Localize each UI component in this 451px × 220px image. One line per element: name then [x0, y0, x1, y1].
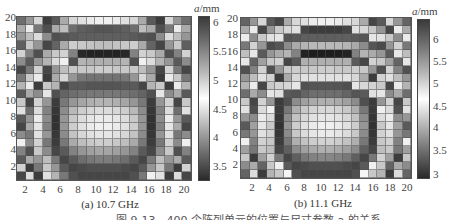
heatmap-cell: [182, 115, 191, 123]
heatmap-cell: [292, 50, 301, 58]
heatmap-cell: [174, 41, 183, 49]
heatmap-cell: [43, 147, 52, 155]
heatmap-cell: [258, 138, 267, 146]
heatmap-cell: [318, 26, 327, 34]
heatmap-cell: [87, 25, 96, 33]
y-tick: 20: [0, 12, 16, 23]
heatmap-cell: [258, 34, 267, 42]
heatmap-cell: [403, 26, 412, 34]
heatmap-cell: [369, 98, 378, 106]
heatmap-cell: [139, 156, 148, 164]
heatmap-cell: [403, 82, 412, 90]
colorbar-tick: 5.5: [433, 56, 447, 67]
heatmap-cell: [34, 139, 43, 147]
heatmap-cell: [250, 162, 259, 170]
heatmap-cell: [182, 74, 191, 82]
heatmap-cell: [87, 41, 96, 49]
heatmap-cell: [267, 98, 276, 106]
heatmap-cell: [182, 82, 191, 90]
heatmap-cell: [394, 146, 403, 154]
heatmap-cell: [275, 90, 284, 98]
heatmap-cell: [69, 58, 78, 66]
heatmap-cell: [369, 82, 378, 90]
heatmap-cell: [377, 42, 386, 50]
heatmap-cell: [174, 66, 183, 74]
heatmap-cell: [147, 90, 156, 98]
heatmap-cell: [241, 18, 250, 26]
colorbar-title-b: a/mm: [412, 5, 438, 17]
heatmap-cell: [165, 139, 174, 147]
heatmap-cell: [250, 130, 259, 138]
heatmap-cell: [87, 172, 96, 180]
heatmap-cell: [394, 58, 403, 66]
heatmap-cell: [69, 139, 78, 147]
heatmap-cell: [104, 98, 113, 106]
heatmap-cell: [284, 18, 293, 26]
heatmap-cell: [275, 98, 284, 106]
heatmap-cell: [250, 146, 259, 154]
heatmap-cell: [386, 58, 395, 66]
heatmap-cell: [292, 34, 301, 42]
heatmap-cell: [78, 139, 87, 147]
heatmap-cell: [52, 139, 61, 147]
heatmap-cell: [156, 139, 165, 147]
y-tick: 14: [222, 62, 238, 73]
heatmap-cell: [352, 130, 361, 138]
heatmap-cell: [369, 58, 378, 66]
heatmap-cell: [121, 41, 130, 49]
heatmap-cell: [43, 156, 52, 164]
heatmap-cell: [335, 58, 344, 66]
heatmap-cell: [292, 170, 301, 178]
heatmap-cell: [386, 114, 395, 122]
heatmap-cell: [394, 122, 403, 130]
heatmap-cell: [309, 82, 318, 90]
heatmap-cell: [78, 58, 87, 66]
heatmap-cell: [369, 106, 378, 114]
heatmap-cell: [241, 114, 250, 122]
colorbar-tick: 3.5: [433, 145, 447, 156]
heatmap-cell: [34, 172, 43, 180]
heatmap-cell: [52, 172, 61, 180]
heatmap-cell: [69, 164, 78, 172]
heatmap-cell: [34, 123, 43, 131]
heatmap-cell: [95, 82, 104, 90]
heatmap-cell: [156, 50, 165, 58]
heatmap-cell: [147, 25, 156, 33]
heatmap-cell: [394, 106, 403, 114]
heatmap-cell: [369, 146, 378, 154]
x-tick: 20: [176, 184, 192, 195]
heatmap-cell: [403, 162, 412, 170]
heatmap-cell: [258, 154, 267, 162]
heatmap-cell: [241, 98, 250, 106]
heatmap-cell: [174, 50, 183, 58]
heatmap-cell: [377, 154, 386, 162]
heatmap-cell: [250, 50, 259, 58]
heatmap-cell: [130, 164, 139, 172]
heatmap-cell: [34, 17, 43, 25]
heatmap-cell: [104, 164, 113, 172]
heatmap-cell: [258, 66, 267, 74]
heatmap-cell: [369, 74, 378, 82]
heatmap-cell: [139, 147, 148, 155]
heatmap-cell: [165, 25, 174, 33]
heatmap-cell: [121, 139, 130, 147]
heatmap-cell: [326, 18, 335, 26]
heatmap-cell: [26, 123, 35, 131]
heatmap-cell: [87, 156, 96, 164]
heatmap-cell: [69, 41, 78, 49]
heatmap-cell: [352, 74, 361, 82]
heatmap-cell: [147, 82, 156, 90]
heatmap-cell: [34, 33, 43, 41]
heatmap-cell: [60, 66, 69, 74]
heatmap-cell: [104, 123, 113, 131]
heatmap-cell: [301, 18, 310, 26]
heatmap-cell: [318, 146, 327, 154]
heatmap-cell: [147, 164, 156, 172]
heatmap-cell: [343, 114, 352, 122]
heatmap-cell: [318, 90, 327, 98]
heatmap-cell: [69, 33, 78, 41]
heatmap-cell: [26, 25, 35, 33]
y-tick: 18: [0, 29, 16, 40]
heatmap-cell: [104, 41, 113, 49]
heatmap-cell: [139, 131, 148, 139]
